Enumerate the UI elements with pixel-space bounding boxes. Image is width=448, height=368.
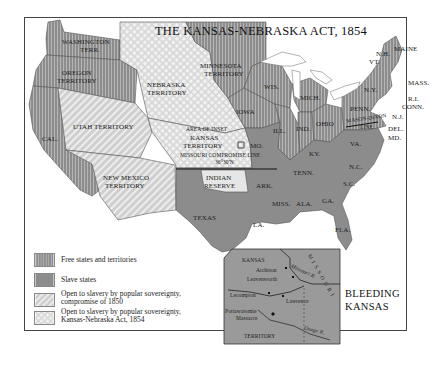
label-texas: TEXAS	[193, 214, 216, 222]
inset-title-line1: BLEEDING	[345, 287, 400, 300]
label-nj: N.J.	[392, 113, 404, 121]
label-ill: ILL.	[273, 127, 286, 135]
inset-title-line2: KANSAS	[345, 300, 400, 313]
label-ky: KY.	[309, 150, 320, 158]
label-missouri-compromise-lat: 36°30'N	[215, 159, 234, 165]
label-nebraska: NEBRASKA	[147, 81, 186, 89]
label-utah: UTAH TERRITORY	[73, 123, 134, 131]
label-nc: N.C.	[349, 163, 363, 171]
label-ri: R.I.	[408, 95, 419, 103]
legend-swatch-slave	[34, 273, 55, 287]
leavenworth-marker	[292, 276, 294, 278]
label-fla: FLA.	[335, 226, 350, 234]
label-miss: MISS.	[272, 200, 291, 208]
inset-label-territory: TERRITORY	[244, 333, 275, 339]
label-la: LA.	[253, 221, 264, 229]
label-ind: IND.	[296, 125, 311, 133]
label-mass: MASS.	[408, 79, 429, 87]
label-ark: ARK.	[256, 182, 273, 190]
inset-label-massacre: Massacre	[236, 315, 258, 321]
legend-label-free: Free states and territories	[61, 256, 137, 264]
label-mo: MO.	[250, 142, 263, 150]
legend-swatch-kansas-nebraska	[34, 311, 55, 325]
inset-label-lawrence: Lawrence	[286, 298, 308, 304]
label-nh: N.H.	[376, 50, 390, 58]
label-penn: PENN.	[350, 105, 371, 113]
label-indian-2: RESERVE	[204, 182, 235, 190]
label-kansas: KANSAS	[190, 134, 219, 142]
lawrence-marker	[282, 295, 284, 297]
atchison-marker	[285, 267, 287, 269]
label-md: MD.	[388, 134, 401, 142]
label-tenn: TENN.	[293, 169, 314, 177]
inset-label-kansas: KANSAS	[242, 257, 265, 263]
label-ohio: OHIO	[316, 120, 334, 128]
label-mason-dixon-2: LINE	[360, 124, 373, 130]
inset-title: BLEEDING KANSAS	[345, 287, 400, 313]
label-sc: S.C.	[343, 180, 355, 188]
label-minnesota-2: TERRITORY	[204, 70, 244, 78]
inset-label-lecompton: Lecompton	[230, 292, 256, 298]
legend-label-kansas-nebraska-2: Kansas-Nebraska Act, 1854	[61, 316, 145, 324]
inset-label-leavenworth: Leavenworth	[247, 276, 277, 282]
map-title: THE KANSAS-NEBRASKA ACT, 1854	[155, 24, 367, 39]
label-california: CAL.	[42, 135, 58, 143]
label-kansas-2: TERRITORY	[183, 142, 223, 150]
label-ala: ALA.	[296, 200, 313, 208]
label-minnesota: MINNESOTA	[200, 62, 242, 70]
label-conn: CONN.	[402, 103, 424, 111]
label-maine: MAINE	[394, 45, 417, 53]
label-ga: GA.	[322, 197, 334, 205]
label-oregon: OREGON	[62, 69, 92, 77]
legend-label-slave: Slave states	[61, 276, 96, 284]
label-iowa: IOWA	[236, 108, 255, 116]
label-new-mexico-2: TERRITORY	[105, 182, 145, 190]
label-indian: INDIAN	[206, 174, 231, 182]
label-missouri-compromise: MISSOURI COMPROMISE LINE	[180, 152, 260, 158]
label-del: DEL.	[388, 125, 404, 133]
label-washington-2: TERR.	[80, 46, 100, 54]
label-vt: VT.	[369, 58, 380, 66]
legend-swatch-compromise	[34, 293, 55, 307]
label-oregon-2: TERRITORY	[57, 77, 97, 85]
inset-label-pottawatomie: Pottawatomie	[225, 308, 256, 314]
label-ny: N.Y.	[364, 86, 377, 94]
lecompton-marker	[268, 292, 270, 294]
label-mich: MICH.	[300, 94, 321, 102]
label-area-of-inset: AREA OF INSET	[186, 126, 227, 132]
legend-label-compromise-2: compromise of 1850	[61, 298, 123, 306]
label-va: VA.	[350, 140, 361, 148]
inset-label-atchison: Atchison	[256, 267, 277, 273]
label-wis: WIS.	[264, 83, 279, 91]
label-new-mexico: NEW MEXICO	[103, 174, 149, 182]
label-nebraska-2: TERRITORY	[147, 89, 187, 97]
legend-swatch-free	[34, 253, 55, 267]
label-washington: WASHINGTON	[62, 38, 110, 46]
